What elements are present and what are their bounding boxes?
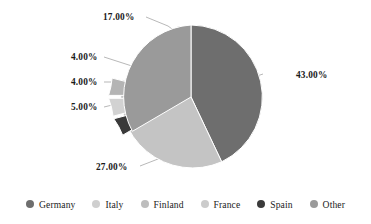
legend-item-germany[interactable]: Germany xyxy=(26,199,75,210)
legend-item-spain[interactable]: Spain xyxy=(257,199,292,210)
legend-label-finland: Finland xyxy=(154,199,184,210)
legend-swatch-finland-icon xyxy=(141,200,149,208)
value-label-france: 5.00% xyxy=(71,102,98,112)
pie-slices xyxy=(109,25,263,168)
legend-item-italy[interactable]: Italy xyxy=(92,199,123,210)
value-label-finland: 4.00% xyxy=(71,77,98,87)
legend-label-other: Other xyxy=(323,199,345,210)
legend-item-france[interactable]: France xyxy=(201,199,241,210)
chart-legend: Germany Italy Finland France Spain Other xyxy=(0,193,371,215)
legend-label-spain: Spain xyxy=(270,199,292,210)
value-label-other: 17.00% xyxy=(103,12,134,22)
value-label-spain: 4.00% xyxy=(71,52,98,62)
legend-label-germany: Germany xyxy=(39,199,75,210)
legend-item-other[interactable]: Other xyxy=(310,199,345,210)
legend-label-italy: Italy xyxy=(105,199,123,210)
pie-chart-figure: 17.00% 43.00% 27.00% 4.00% 4.00% 5.00% G… xyxy=(0,0,371,224)
value-label-germany: 43.00% xyxy=(296,70,327,80)
legend-swatch-other-icon xyxy=(310,200,318,208)
legend-swatch-italy-icon xyxy=(92,200,100,208)
value-label-italy: 27.00% xyxy=(96,162,127,172)
pie-chart-canvas: 17.00% 43.00% 27.00% 4.00% 4.00% 5.00% xyxy=(0,0,371,224)
legend-label-france: France xyxy=(214,199,241,210)
legend-swatch-spain-icon xyxy=(257,200,265,208)
legend-item-finland[interactable]: Finland xyxy=(141,199,184,210)
legend-swatch-france-icon xyxy=(201,200,209,208)
legend-swatch-germany-icon xyxy=(26,200,34,208)
